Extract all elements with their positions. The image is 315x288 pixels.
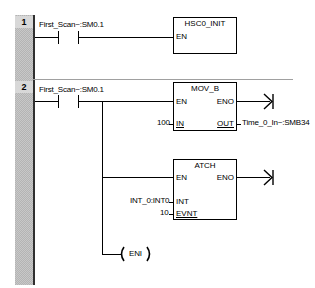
network-1-contact-label[interactable]: First_Scan~:SM0.1 xyxy=(39,20,104,29)
hsc0-init-box[interactable]: HSC0_INIT EN xyxy=(173,17,237,54)
hsc0-init-title: HSC0_INIT xyxy=(174,19,236,28)
hsc0-init-en-pin: EN xyxy=(176,32,187,41)
mov-b-en-pin: EN xyxy=(176,97,187,106)
network-1-contact-left-bar[interactable] xyxy=(58,31,59,44)
network-2-wire-to-mov xyxy=(78,101,173,102)
network-2-contact-label[interactable]: First_Scan~:SM0.1 xyxy=(39,85,104,94)
mov-b-out-value[interactable]: Time_0_In~:SMB34 xyxy=(242,118,309,127)
mov-b-out-stub xyxy=(237,124,241,125)
atch-title: ATCH xyxy=(174,161,236,170)
network-1-number[interactable]: 1 xyxy=(15,16,33,28)
atch-eno-arrow-icon xyxy=(262,169,276,186)
atch-evnt-pin: EVNT xyxy=(176,209,197,218)
mov-b-title: MOV_B xyxy=(174,84,236,93)
network-1-wire-right xyxy=(78,37,173,38)
mov-b-out-pin: OUT xyxy=(217,119,234,128)
mov-b-in-stub xyxy=(169,124,173,125)
atch-evnt-stub xyxy=(169,214,173,215)
mov-b-box[interactable]: MOV_B EN ENO IN OUT xyxy=(173,82,237,131)
atch-int-stub xyxy=(169,202,173,203)
network-2-contact-left-bar[interactable] xyxy=(58,95,59,108)
atch-eno-pin: ENO xyxy=(217,173,234,182)
mov-b-in-value[interactable]: 100 xyxy=(157,118,170,127)
mov-b-eno-arrow-icon xyxy=(262,93,276,110)
network-separator xyxy=(33,79,293,80)
network-2-wire-left xyxy=(35,101,58,102)
mov-b-eno-pin: ENO xyxy=(217,97,234,106)
atch-box[interactable]: ATCH EN ENO INT EVNT xyxy=(173,159,237,220)
eni-coil-label: ENI xyxy=(129,249,142,258)
atch-evnt-value[interactable]: 10 xyxy=(160,208,169,217)
power-rail xyxy=(33,15,35,285)
network-1-wire-left xyxy=(35,37,58,38)
network-gutter xyxy=(15,15,33,285)
network-2-number[interactable]: 2 xyxy=(15,81,33,93)
network-2-wire-to-atch xyxy=(102,177,173,178)
eni-coil[interactable]: ENI xyxy=(119,246,153,262)
atch-en-pin: EN xyxy=(176,173,187,182)
network-2-branch-vertical xyxy=(102,101,103,255)
atch-int-pin: INT xyxy=(176,197,189,206)
atch-int-value[interactable]: INT_0:INT0 xyxy=(130,196,169,205)
mov-b-in-pin: IN xyxy=(176,119,184,128)
